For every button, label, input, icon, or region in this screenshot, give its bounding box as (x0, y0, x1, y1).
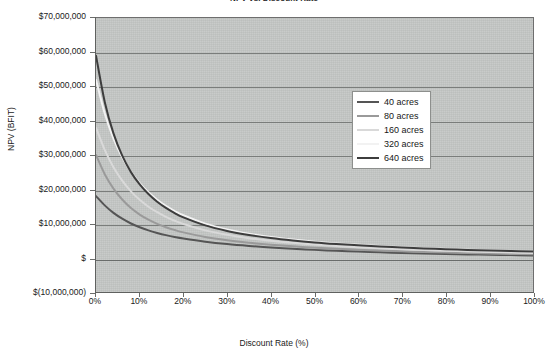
y-tick-label: $50,000,000 (4, 81, 86, 90)
legend-item-label: 640 acres (384, 152, 424, 164)
legend-item-label: 160 acres (384, 124, 424, 136)
legend-color-swatch (357, 101, 379, 103)
y-axis-line (95, 17, 96, 293)
plot-area (95, 17, 534, 293)
x-tick-label: 40% (251, 296, 291, 306)
legend-item[interactable]: 160 acres (357, 123, 424, 137)
y-tick-label: $70,000,000 (4, 12, 86, 21)
legend-color-swatch (357, 157, 379, 159)
y-tick-label: $30,000,000 (4, 150, 86, 159)
legend-color-swatch (357, 143, 379, 145)
chart-container: NPV vs. Discount Rate NPV (BFIT) $70,000… (0, 0, 548, 353)
legend-item-label: 320 acres (384, 138, 424, 150)
series-line (96, 56, 533, 252)
x-tick-label: 30% (207, 296, 247, 306)
series-lines (96, 18, 533, 292)
y-tick-label: $20,000,000 (4, 185, 86, 194)
y-axis-tick-labels: $70,000,000$60,000,000$50,000,000$40,000… (0, 0, 86, 353)
legend-item-label: 40 acres (384, 96, 419, 108)
y-tick-label: $(10,000,000) (4, 288, 86, 297)
legend-item[interactable]: 320 acres (357, 137, 424, 151)
x-tick-label: 90% (470, 296, 510, 306)
x-axis-title: Discount Rate (%) (0, 338, 548, 348)
x-tick-label: 20% (163, 296, 203, 306)
x-tick-label: 100% (514, 296, 548, 306)
legend-item-label: 80 acres (384, 110, 419, 122)
x-tick-label: 80% (426, 296, 466, 306)
x-tick-label: 70% (382, 296, 422, 306)
y-tick-label: $ (4, 254, 86, 263)
legend-color-swatch (357, 115, 379, 117)
y-tick-label: $60,000,000 (4, 47, 86, 56)
chart-legend: 40 acres80 acres160 acres320 acres640 ac… (352, 91, 431, 169)
legend-item[interactable]: 640 acres (357, 151, 424, 165)
x-tick-label: 10% (119, 296, 159, 306)
y-tick-label: $10,000,000 (4, 219, 86, 228)
legend-color-swatch (357, 129, 379, 131)
x-tick-label: 60% (338, 296, 378, 306)
y-tick-label: $40,000,000 (4, 116, 86, 125)
legend-item[interactable]: 40 acres (357, 95, 424, 109)
legend-item[interactable]: 80 acres (357, 109, 424, 123)
x-tick-label: 0% (75, 296, 115, 306)
x-tick-label: 50% (295, 296, 335, 306)
